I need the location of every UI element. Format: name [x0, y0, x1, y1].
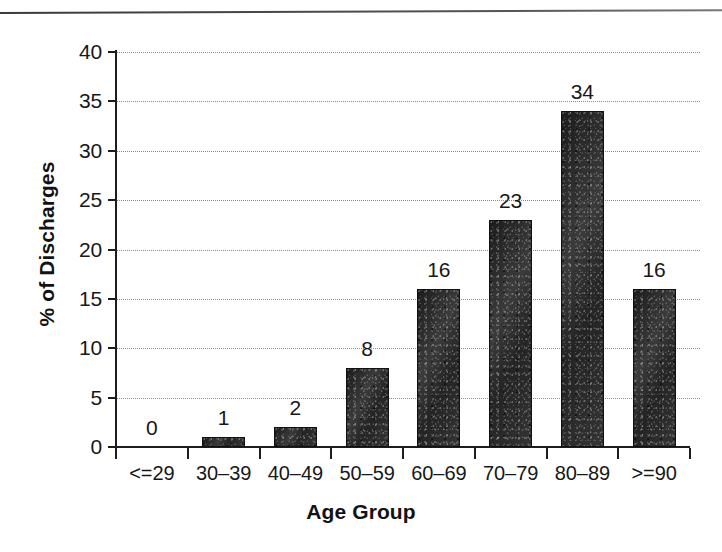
x-axis-title: Age Group — [0, 500, 722, 524]
y-axis-tick-label: 40 — [40, 41, 102, 62]
bar — [633, 289, 676, 447]
bar-value-label: 16 — [614, 259, 694, 280]
bar-chart-figure: 0510152025303540 <=2930–3940–4950–5960–6… — [0, 0, 722, 552]
bar-value-label: 34 — [542, 81, 622, 102]
bar-value-label: 23 — [471, 190, 551, 211]
y-axis-tick-label: 0 — [40, 436, 102, 457]
bar-value-label: 0 — [112, 417, 192, 438]
x-axis-tick — [546, 448, 548, 459]
bar — [202, 437, 245, 447]
x-axis-tick — [474, 448, 476, 459]
x-axis-tick — [402, 448, 404, 459]
bar — [417, 289, 460, 447]
x-axis-category-label: >=90 — [609, 462, 699, 484]
bar — [561, 111, 604, 447]
bar — [274, 427, 317, 447]
bar — [346, 368, 389, 447]
bar — [489, 220, 532, 447]
x-axis-tick — [689, 448, 691, 459]
bar-value-label: 16 — [399, 259, 479, 280]
x-axis-tick — [330, 448, 332, 459]
bar-value-label: 1 — [184, 407, 264, 428]
y-axis-title: % of Discharges — [35, 79, 59, 409]
page-rule-divider — [0, 9, 722, 14]
x-axis-tick — [187, 448, 189, 459]
x-axis-tick — [617, 448, 619, 459]
bar-value-label: 2 — [255, 397, 335, 418]
bar-value-label: 8 — [327, 338, 407, 359]
plot-area — [116, 52, 700, 447]
x-axis-tick — [259, 448, 261, 459]
x-axis-tick — [115, 448, 117, 459]
